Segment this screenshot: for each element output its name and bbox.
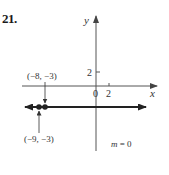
point-neg8-neg3 xyxy=(42,104,48,110)
point-neg9-neg3 xyxy=(36,104,42,110)
y-tick-label-2: 2 xyxy=(87,67,92,78)
y-axis-label: y xyxy=(83,14,89,26)
x-tick-label-2: 2 xyxy=(106,88,111,99)
point-label-neg9: (−9, −3) xyxy=(24,134,54,144)
slope-value: = 0 xyxy=(118,139,133,149)
graph: y x 0 2 2 (−8, −3) (−9, −3) m = 0 xyxy=(0,0,169,175)
figure: 21. y x 0 2 2 xyxy=(0,0,169,175)
origin-label: 0 xyxy=(93,88,98,99)
slope-label: m = 0 xyxy=(111,139,132,149)
point-label-neg8: (−8, −3) xyxy=(27,71,57,81)
x-axis-label: x xyxy=(149,87,155,99)
